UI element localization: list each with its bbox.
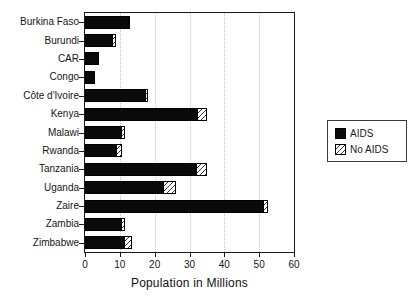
no-aids-segment	[263, 201, 266, 212]
aids-segment	[86, 164, 196, 175]
country-label: Burundi	[0, 36, 79, 46]
y-tick-mark	[79, 206, 84, 207]
aids-segment	[86, 182, 163, 193]
bar-car	[85, 52, 99, 65]
no-aids-segment	[121, 127, 124, 138]
y-tick-mark	[79, 41, 84, 42]
x-tick-mark	[294, 253, 295, 257]
x-tick-label: 60	[288, 259, 299, 270]
bar-tanzania	[85, 163, 207, 176]
country-label: Malawi	[0, 128, 79, 138]
y-tick-mark	[79, 151, 84, 152]
y-tick-mark	[79, 224, 84, 225]
aids-segment	[86, 72, 94, 83]
no-aids-segment	[128, 17, 130, 28]
country-label: Zaire	[0, 201, 79, 211]
y-tick-mark	[79, 77, 84, 78]
country-label: Congo	[0, 72, 79, 82]
x-tick-label: 0	[82, 259, 88, 270]
legend-entry-aids: AIDS	[335, 128, 406, 139]
bar-uganda	[85, 181, 176, 194]
country-label: Côte d'Ivoire	[0, 91, 79, 101]
legend-label: No AIDS	[350, 144, 388, 155]
bar-c-te-d-ivoire	[85, 89, 148, 102]
country-label: Zambia	[0, 219, 79, 229]
population-aids-bar-chart: Burkina FasoBurundiCARCongoCôte d'Ivoire…	[0, 0, 413, 301]
hatched-swatch-icon	[335, 144, 346, 155]
aids-segment	[86, 109, 197, 120]
bar-congo	[85, 71, 95, 84]
aids-segment	[86, 127, 121, 138]
y-tick-mark	[79, 96, 84, 97]
y-tick-mark	[79, 188, 84, 189]
x-tick-mark	[224, 253, 225, 257]
bar-burkina-faso	[85, 16, 130, 29]
bar-zimbabwe	[85, 236, 132, 249]
country-label: Rwanda	[0, 146, 79, 156]
no-aids-segment	[196, 164, 206, 175]
gridline	[155, 13, 156, 252]
no-aids-segment	[121, 219, 124, 230]
no-aids-segment	[116, 145, 121, 156]
bar-burundi	[85, 34, 116, 47]
bar-zambia	[85, 218, 125, 231]
x-tick-mark	[85, 253, 86, 257]
aids-segment	[86, 201, 263, 212]
x-tick-mark	[120, 253, 121, 257]
y-tick-mark	[79, 133, 84, 134]
x-tick-mark	[190, 253, 191, 257]
bar-zaire	[85, 200, 268, 213]
aids-segment	[86, 35, 112, 46]
country-label: Tanzania	[0, 164, 79, 174]
country-label: Uganda	[0, 183, 79, 193]
y-tick-mark	[79, 169, 84, 170]
gridline	[190, 13, 191, 252]
x-tick-label: 20	[149, 259, 160, 270]
x-tick-mark	[259, 253, 260, 257]
aids-segment	[86, 219, 121, 230]
legend-entry-no-aids: No AIDS	[335, 144, 406, 155]
y-tick-mark	[79, 59, 84, 60]
no-aids-segment	[163, 182, 175, 193]
x-tick-label: 30	[184, 259, 195, 270]
bar-kenya	[85, 108, 207, 121]
country-label: Zimbabwe	[0, 238, 79, 248]
legend: AIDSNo AIDS	[327, 120, 407, 162]
no-aids-segment	[145, 90, 147, 101]
x-tick-mark	[155, 253, 156, 257]
plot-area	[84, 12, 295, 253]
bar-malawi	[85, 126, 125, 139]
country-label: Burkina Faso	[0, 17, 79, 27]
y-tick-mark	[79, 243, 84, 244]
aids-segment	[86, 145, 116, 156]
no-aids-segment	[197, 109, 206, 120]
aids-segment	[86, 90, 145, 101]
x-tick-label: 10	[114, 259, 125, 270]
gridline	[224, 13, 225, 252]
legend-label: AIDS	[350, 128, 373, 139]
y-tick-mark	[79, 114, 84, 115]
gridline	[259, 13, 260, 252]
aids-segment	[86, 53, 98, 64]
x-axis-title: Population in Millions	[84, 276, 295, 290]
solid-swatch-icon	[335, 128, 346, 139]
country-label: CAR	[0, 54, 79, 64]
y-tick-mark	[79, 22, 84, 23]
country-label: Kenya	[0, 109, 79, 119]
aids-segment	[86, 237, 124, 248]
x-tick-label: 40	[219, 259, 230, 270]
no-aids-segment	[124, 237, 131, 248]
no-aids-segment	[112, 35, 115, 46]
x-tick-label: 50	[254, 259, 265, 270]
bar-rwanda	[85, 144, 122, 157]
aids-segment	[86, 17, 128, 28]
